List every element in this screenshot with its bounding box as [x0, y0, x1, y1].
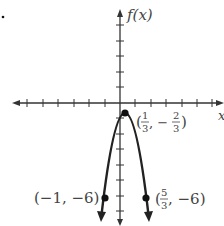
vertex-y-numerator: 2	[173, 110, 179, 121]
vertex-separator: , −	[149, 115, 168, 130]
right-branch-arrow-icon	[144, 211, 153, 222]
right-x-numerator: 5	[161, 187, 167, 198]
stray-dot	[2, 16, 5, 19]
vertex-open-paren: (	[136, 113, 142, 131]
x-axis-left-arrow-icon	[12, 100, 20, 106]
left-branch-arrow-icon	[97, 211, 106, 222]
vertex-x-denominator: 3	[142, 123, 148, 134]
left-point-label: (−1, −6)	[34, 189, 99, 207]
y-axis-label: f(x)	[126, 6, 153, 24]
x-axis	[12, 99, 224, 107]
vertex-x-numerator: 1	[142, 110, 148, 121]
x-axis-right-arrow-icon	[216, 100, 224, 106]
x-axis-label: x	[218, 108, 224, 123]
right-rest: , −6)	[168, 190, 206, 208]
function-graph: f(x) x ( 1 3 , − 2 3 ) (−1, −6) ( 5 3 , …	[0, 0, 224, 226]
right-point-label: ( 5 3 , −6)	[155, 187, 206, 211]
left-point	[101, 194, 108, 201]
vertex-close-paren: )	[181, 113, 187, 131]
y-axis-up-arrow-icon	[117, 9, 123, 17]
vertex-point	[121, 109, 128, 116]
right-open-paren: (	[155, 190, 161, 208]
vertex-y-denominator: 3	[173, 123, 179, 134]
right-point	[142, 194, 149, 201]
y-axis-down-arrow-icon	[117, 219, 123, 226]
vertex-label: ( 1 3 , − 2 3 )	[136, 110, 187, 134]
right-x-denominator: 3	[161, 200, 167, 211]
